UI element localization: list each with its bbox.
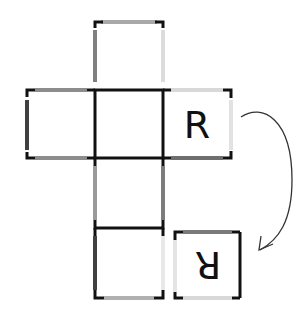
curved-arrow: [241, 112, 292, 250]
face-lower: [95, 158, 163, 228]
folded-face-label-r: R: [195, 243, 221, 287]
face-top: [95, 22, 163, 82]
face-bottom: [95, 228, 163, 298]
face-center: [95, 90, 163, 158]
face-label-r: R: [184, 103, 210, 147]
face-left: [27, 90, 95, 158]
cube-net-diagram: R R: [0, 0, 307, 317]
